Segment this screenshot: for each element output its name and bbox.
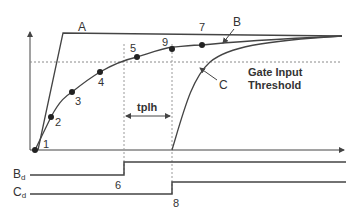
point-1-label: 1 [43,139,49,150]
threshold-label-line2: Threshold [248,80,301,91]
point-4-label: 4 [98,77,104,88]
curve-c-label: C [219,79,228,91]
curve-a-label: A [78,21,86,33]
point-3-label: 3 [75,96,81,107]
point-2-label: 2 [55,117,61,128]
bd-signal-label: Bd [13,168,25,182]
timing-diagram: A B C Gate Input Threshold tplh 1 2 3 4 … [0,0,359,216]
diagram-canvas [0,0,359,216]
curve-b-label: B [233,16,241,28]
point-5-label: 5 [130,43,136,54]
threshold-label-line1: Gate Input [248,67,302,78]
tplh-label: tplh [137,102,157,113]
point-9-label: 9 [162,37,168,48]
point-7-label: 7 [199,22,205,33]
bd-signal [30,162,346,175]
curve-c [172,36,342,150]
cd-signal-label: Cd [13,186,26,200]
edge-8-label: 8 [173,198,179,209]
curve-b [35,36,342,150]
curve-a [38,33,342,150]
cd-signal [30,182,346,194]
curve-b-pointer [223,29,234,43]
curve-c-pointer [200,68,217,80]
edge-6-label: 6 [115,180,121,191]
